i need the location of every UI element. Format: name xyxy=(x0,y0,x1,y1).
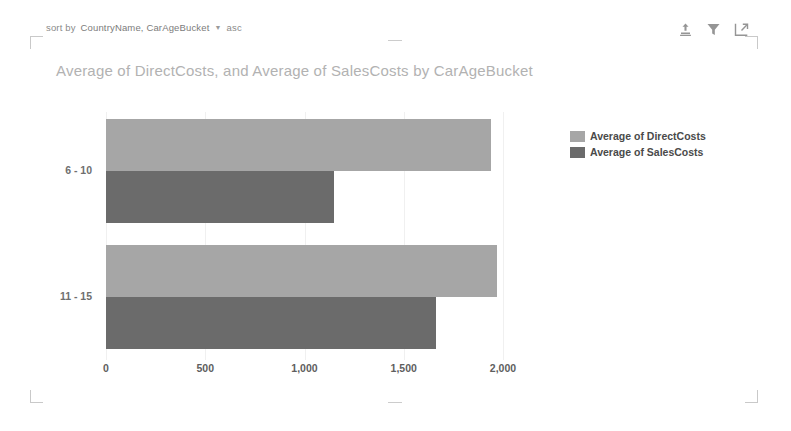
bar-average-of-directcosts-6-10[interactable] xyxy=(106,119,491,171)
x-tick-label: 500 xyxy=(196,362,214,374)
legend[interactable]: Average of DirectCostsAverage of SalesCo… xyxy=(570,130,706,158)
legend-item[interactable]: Average of DirectCosts xyxy=(570,130,706,142)
x-tick-label: 2,000 xyxy=(490,362,516,374)
legend-swatch-icon xyxy=(570,147,585,158)
y-tick-label[interactable]: 6 - 10 xyxy=(65,164,92,176)
bar-average-of-salescosts-6-10[interactable] xyxy=(106,171,334,223)
bar-average-of-directcosts-11-15[interactable] xyxy=(106,245,497,297)
legend-swatch-icon xyxy=(570,131,585,142)
plot-area[interactable]: 6 - 1011 - 15 05001,0001,5002,000 xyxy=(0,0,791,431)
legend-label: Average of DirectCosts xyxy=(590,130,706,142)
legend-label: Average of SalesCosts xyxy=(590,146,703,158)
bar-average-of-salescosts-11-15[interactable] xyxy=(106,297,436,349)
x-tick-label: 1,000 xyxy=(291,362,317,374)
bar-chart-visual[interactable]: sort by CountryName, CarAgeBucket ▼ asc xyxy=(0,0,791,431)
y-tick-label[interactable]: 11 - 15 xyxy=(60,290,92,302)
legend-item[interactable]: Average of SalesCosts xyxy=(570,146,706,158)
x-axis: 05001,0001,5002,000 xyxy=(0,362,791,382)
x-tick-label: 0 xyxy=(103,362,109,374)
x-tick-label: 1,500 xyxy=(391,362,417,374)
